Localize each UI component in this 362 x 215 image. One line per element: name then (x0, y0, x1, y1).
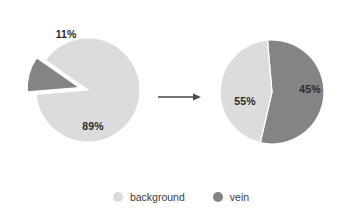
legend-swatch-background-icon (113, 192, 123, 202)
charts-container: 11% 89% 55% 45% (0, 0, 362, 178)
chart-legend: background vein (0, 183, 362, 211)
before-pie-chart: 11% 89% (27, 28, 140, 142)
legend-label-vein: vein (230, 192, 249, 203)
after-pie-slice-background[interactable] (220, 40, 272, 142)
before-pie-label-background: 89% (82, 120, 104, 132)
after-pie-label-background: 45% (299, 83, 321, 95)
charts-svg: 11% 89% 55% 45% (0, 0, 362, 178)
pie-chart-figure: 11% 89% 55% 45% backgr (0, 0, 362, 215)
arrow-head-icon (193, 93, 201, 100)
legend-item-background[interactable]: background (113, 192, 185, 203)
after-pie-chart: 55% 45% (220, 40, 324, 144)
legend-swatch-vein-icon (213, 192, 223, 202)
after-pie-label-vein: 55% (234, 95, 256, 107)
legend-item-vein[interactable]: vein (213, 192, 249, 203)
before-pie-label-vein: 11% (56, 28, 77, 40)
legend-label-background: background (130, 192, 185, 203)
transition-arrow (158, 93, 201, 100)
